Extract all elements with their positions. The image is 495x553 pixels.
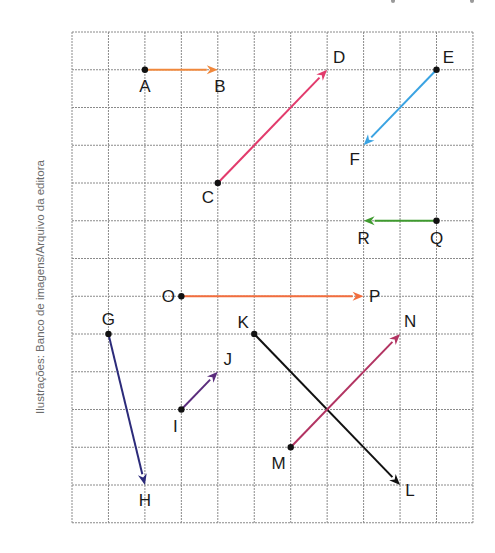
grid-with-vectors xyxy=(0,0,495,553)
vector-grid-figure: Ilustrações: Banco de imagens/Arquivo da… xyxy=(0,0,495,553)
point-label-p: P xyxy=(369,288,380,305)
vector-ij-shaft xyxy=(181,380,210,410)
tail-points xyxy=(105,67,439,451)
vector-cd-shaft xyxy=(218,78,320,183)
point-label-a: A xyxy=(139,77,150,94)
point-label-j: J xyxy=(224,350,233,367)
vector-ef-shaft xyxy=(371,70,436,138)
point-label-b: B xyxy=(214,77,225,94)
vectors xyxy=(108,65,436,485)
point-a-dot xyxy=(142,67,148,73)
grid-lines xyxy=(72,32,473,523)
point-label-f: F xyxy=(349,151,359,168)
point-q-dot xyxy=(433,218,439,224)
point-i-dot xyxy=(178,406,184,412)
point-o-dot xyxy=(178,293,184,299)
point-label-c: C xyxy=(202,189,214,206)
point-label-l: L xyxy=(405,482,414,499)
point-label-g: G xyxy=(102,311,115,328)
point-e-dot xyxy=(433,67,439,73)
point-c-dot xyxy=(215,180,221,186)
point-g-dot xyxy=(105,331,111,337)
point-label-r: R xyxy=(357,229,369,246)
point-label-k: K xyxy=(238,314,249,331)
point-k-dot xyxy=(251,331,257,337)
point-label-d: D xyxy=(333,48,345,65)
point-label-h: H xyxy=(139,492,151,509)
vector-gh-shaft xyxy=(108,334,142,474)
point-label-i: I xyxy=(173,417,178,434)
point-m-dot xyxy=(288,444,294,450)
point-label-n: N xyxy=(404,313,416,330)
point-label-e: E xyxy=(443,48,454,65)
point-label-o: O xyxy=(162,288,175,305)
point-label-m: M xyxy=(272,455,286,472)
point-label-q: Q xyxy=(430,229,443,246)
vector-mn-shaft xyxy=(291,342,393,447)
